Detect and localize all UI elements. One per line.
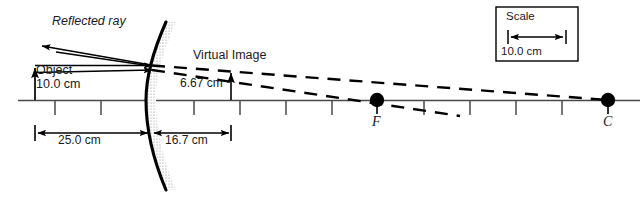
label-image-distance: 16.7 cm xyxy=(165,133,208,147)
virtual-ray-extensions xyxy=(152,66,608,117)
label-reflected-ray: Reflected ray xyxy=(52,14,126,28)
focal-point-marker xyxy=(370,93,384,114)
optics-diagram-svg xyxy=(0,0,644,200)
ray-diagram-canvas: Reflected ray Object 10.0 cm Virtual Ima… xyxy=(0,0,644,200)
label-center-of-curvature: C xyxy=(603,114,612,130)
label-focal-point: F xyxy=(372,114,381,130)
label-scale-title: Scale xyxy=(506,10,535,22)
label-object-height: 10.0 cm xyxy=(36,77,80,91)
label-object: Object xyxy=(36,64,72,77)
principal-axis-ruler xyxy=(18,101,640,116)
label-virtual-image: Virtual Image xyxy=(193,48,266,62)
label-image-height: 6.67 cm xyxy=(180,76,223,90)
center-of-curvature-marker xyxy=(601,93,615,114)
axis-tick-group xyxy=(55,101,562,116)
label-object-distance: 25.0 cm xyxy=(58,133,101,147)
convex-mirror xyxy=(146,22,176,190)
label-scale-value: 10.0 cm xyxy=(501,45,542,57)
